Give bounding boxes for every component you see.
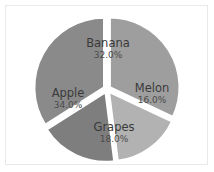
pie-chart: Banana32.0%Melon16.0%Grapes18.0%Apple34.… — [0, 0, 214, 172]
slice-percent-banana: 32.0% — [94, 50, 123, 60]
slice-percent-grapes: 18.0% — [100, 134, 129, 144]
slice-percent-melon: 16.0% — [138, 95, 167, 105]
slice-percent-apple: 34.0% — [54, 100, 83, 110]
slice-label-apple: Apple — [52, 86, 85, 100]
slice-label-banana: Banana — [86, 36, 130, 50]
slice-label-melon: Melon — [135, 81, 170, 95]
pie-chart-card: Banana32.0%Melon16.0%Grapes18.0%Apple34.… — [0, 0, 214, 172]
slice-label-grapes: Grapes — [93, 120, 134, 134]
